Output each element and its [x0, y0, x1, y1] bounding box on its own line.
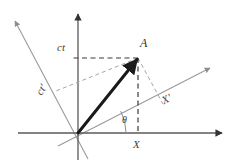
- x-primed-axis-line: [58, 68, 210, 146]
- ct-axis-label: ct: [57, 42, 65, 53]
- angle-label: θ: [122, 115, 127, 125]
- x-axis-label: X: [133, 139, 140, 150]
- projection-a-to-x-primed: [138, 58, 163, 104]
- physics-diagram: ct ct' A X' X θ: [0, 0, 238, 165]
- point-a-label: A: [140, 37, 147, 49]
- ct-primed-axis-line: [15, 21, 88, 159]
- diagram-canvas: [0, 0, 238, 165]
- displacement-vector: [78, 60, 137, 134]
